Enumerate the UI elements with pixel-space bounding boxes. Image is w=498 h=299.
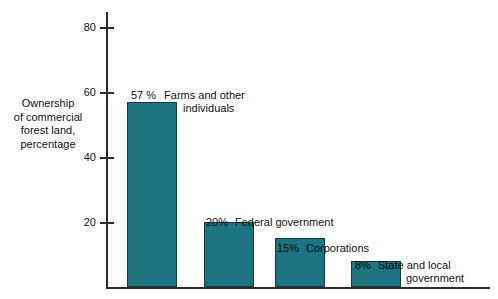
y-tick-mark-60 [100, 92, 114, 94]
bar-value-4: 8% [355, 259, 371, 273]
bar-name-1: Farms and other [164, 89, 245, 103]
bar-value-3: 15% [277, 242, 299, 256]
y-tick-label-60: 60 [70, 87, 96, 98]
bar-name-4-line2: government [406, 272, 464, 286]
y-tick-label-80: 80 [70, 22, 96, 33]
bar-chart: Ownership of commercial forest land, per… [0, 0, 498, 299]
y-tick-label-40: 40 [70, 152, 96, 163]
bar-name-1-line2: individuals [183, 102, 245, 116]
y-axis-line [106, 12, 108, 289]
bar-name-2: Federal government [235, 216, 333, 230]
bar-name-4: State and local [378, 259, 451, 273]
bar-value-1: 57 % [131, 89, 156, 103]
bar-farms-and-other-individuals[interactable] [127, 102, 177, 287]
y-axis-title: Ownership of commercial forest land, per… [2, 97, 94, 151]
y-tick-mark-20 [100, 222, 114, 224]
bar-federal-government[interactable] [204, 222, 254, 287]
y-tick-mark-80 [100, 27, 114, 29]
bar-label-4: 8%State and localgovernment [355, 245, 464, 299]
y-tick-label-20: 20 [70, 217, 96, 228]
bar-label-1: 57 %Farms and otherindividuals [131, 75, 245, 129]
bar-label-2: 20%Federal government [206, 202, 333, 229]
bar-value-2: 20% [206, 216, 228, 230]
y-tick-mark-40 [100, 157, 114, 159]
